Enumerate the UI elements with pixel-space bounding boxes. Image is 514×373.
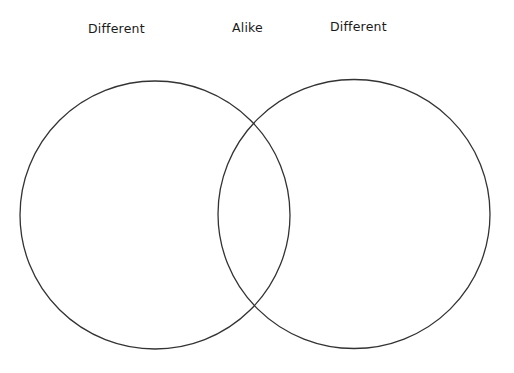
left-circle <box>20 81 290 349</box>
right-circle <box>218 80 490 349</box>
venn-diagram <box>0 0 514 373</box>
